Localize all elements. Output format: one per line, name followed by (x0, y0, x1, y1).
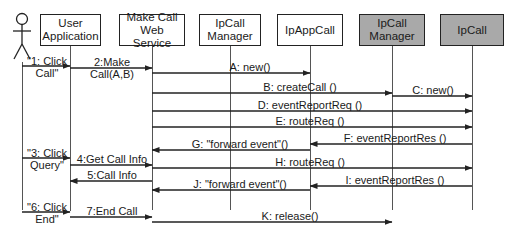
label-j-forward-event: J: "forward event"() (170, 178, 310, 190)
label-g-forward-event: G: "forward event"() (170, 138, 310, 150)
label-5-call-info: 5:Call Info (71, 169, 153, 181)
label-c-new: C: new() (398, 84, 468, 96)
label-e-routereq: E: routeReq () (250, 115, 370, 127)
label-k-release: K: release() (230, 210, 350, 222)
label-h-routereq: H: routeReq () (250, 156, 370, 168)
label-2-make-call: 2:Make Call(A,B) (71, 56, 153, 80)
label-a-new: A: new() (200, 61, 300, 73)
label-1-click-call: "1: Click Call" (22, 55, 72, 79)
label-3-click-query: "3: Click Query" (22, 147, 72, 171)
label-6-click-end: "6: Click End" (22, 201, 72, 225)
label-d-eventreportreq: D: eventReportReq () (220, 99, 400, 111)
label-4-get-call-info: 4:Get Call Info (71, 153, 153, 165)
label-i-eventreportres: I: eventReportRes () (320, 174, 470, 186)
label-f-eventreportres: F: eventReportRes () (320, 132, 470, 144)
label-b-createcall: B: createCall () (230, 81, 370, 93)
label-7-end-call: 7:End Call (71, 205, 153, 217)
